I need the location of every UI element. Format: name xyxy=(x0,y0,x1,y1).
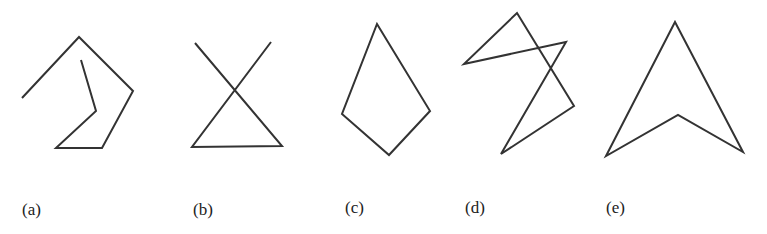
polygon-figure-c xyxy=(342,24,430,155)
polyline-figure-b xyxy=(192,42,282,147)
polygon-figure-d xyxy=(464,13,574,154)
polyline-figure-a xyxy=(22,37,133,148)
polygon-figure-e xyxy=(606,22,743,156)
figure-label-a: (a) xyxy=(22,200,41,220)
figure-label-d: (d) xyxy=(465,198,485,218)
figure-label-b: (b) xyxy=(193,200,213,220)
figure-label-c: (c) xyxy=(345,198,364,218)
figures-canvas xyxy=(0,0,767,234)
figure-label-e: (e) xyxy=(606,198,625,218)
